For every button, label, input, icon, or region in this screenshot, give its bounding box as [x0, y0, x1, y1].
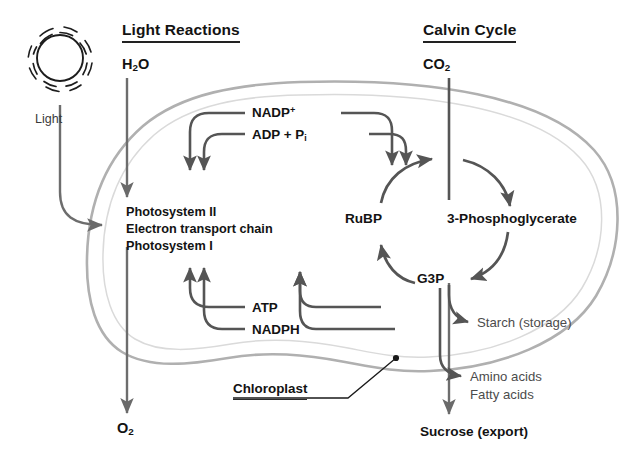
arrow-adp-to-photosystems: [204, 134, 245, 170]
cofactor-label-nadp-plus: NADP+: [252, 105, 295, 121]
product-label-fatty-acids: Fatty acids: [470, 387, 534, 403]
arrow-light-to-photosystems: [60, 105, 102, 225]
cofactor-label-atp: ATP: [252, 300, 278, 316]
output-oxygen-label: O2: [117, 420, 134, 438]
arrow-cycle-to-nadp: [341, 113, 392, 165]
cycle-node-g3p: G3P: [417, 271, 444, 287]
chloroplast-underline: [233, 399, 307, 401]
complex-label-etc: Electron transport chain: [126, 221, 273, 238]
section-title-calvin-cycle: Calvin Cycle: [423, 21, 516, 43]
cofactor-label-adp-pi: ADP + Pi: [252, 127, 307, 144]
cycle-node-rubp: RuBP: [345, 211, 382, 227]
complex-label-ps1: Photosystem I: [126, 238, 273, 255]
cycle-node-pga: 3-Phosphoglycerate: [447, 211, 577, 227]
arrow-nadp-to-photosystems: [190, 113, 245, 170]
arrow-atp-from-photosystems: [190, 268, 245, 307]
input-water-label: H2O: [122, 56, 149, 74]
title-underline-left: [122, 41, 240, 43]
arrow-nadph-from-photosystems: [204, 268, 245, 329]
title-underline-right: [423, 41, 516, 43]
arrow-co2-into-pga: [463, 160, 510, 206]
complex-label-ps2: Photosystem II: [126, 204, 273, 221]
product-label-amino-acids: Amino acids: [470, 369, 542, 385]
photosystem-complex-stack: Photosystem II Electron transport chain …: [126, 204, 273, 255]
organelle-label-chloroplast: Chloroplast: [233, 381, 307, 400]
photosynthesis-diagram: Light Reactions Calvin Cycle H2O CO2 Lig…: [0, 0, 638, 471]
arrow-cycle-to-adp: [369, 134, 406, 165]
arrow-atp-into-cycle: [300, 272, 381, 307]
arrow-rubp-to-pga: [381, 159, 432, 203]
input-co2-label: CO2: [423, 56, 450, 74]
sun-icon: [28, 27, 92, 92]
arrow-g3p-to-starch: [449, 285, 468, 322]
arrow-nadph-into-cycle: [300, 272, 395, 329]
output-sucrose-label: Sucrose (export): [420, 424, 528, 440]
light-label: Light: [35, 112, 62, 127]
arrow-g3p-to-rubp: [381, 245, 415, 283]
diagram-graphics-layer: [0, 0, 638, 471]
cofactor-label-nadph: NADPH: [252, 322, 300, 338]
section-title-light-reactions: Light Reactions: [122, 21, 240, 43]
product-label-starch: Starch (storage): [477, 315, 572, 331]
arrow-pga-to-g3p: [471, 232, 508, 279]
